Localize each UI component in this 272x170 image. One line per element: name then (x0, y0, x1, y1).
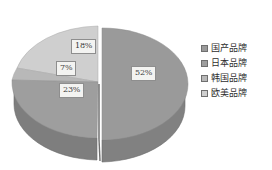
pie-chart: 52% 18% 7% 23% 国产品牌 日本品牌 韩国品牌 欧美品牌 (0, 0, 272, 170)
chart-legend: 国产品牌 日本品牌 韩国品牌 欧美品牌 (201, 41, 269, 101)
data-label-domestic: 52% (131, 66, 156, 81)
legend-item-japanese[interactable]: 日本品牌 (201, 56, 269, 71)
legend-item-european[interactable]: 欧美品牌 (201, 86, 269, 101)
data-label-korean: 7% (56, 61, 76, 76)
legend-swatch-icon (201, 90, 208, 97)
legend-label: 韩国品牌 (211, 74, 247, 83)
data-label-european: 18% (71, 39, 96, 54)
data-label-japanese: 23% (59, 83, 84, 98)
pie-plot-area: 52% 18% 7% 23% (0, 0, 196, 170)
legend-item-korean[interactable]: 韩国品牌 (201, 71, 269, 86)
pie-explode-gap-line-lower (99, 139, 100, 161)
legend-swatch-icon (201, 60, 208, 67)
legend-label: 国产品牌 (211, 44, 247, 53)
legend-item-domestic[interactable]: 国产品牌 (201, 41, 269, 56)
legend-swatch-icon (201, 75, 208, 82)
legend-swatch-icon (201, 45, 208, 52)
legend-label: 日本品牌 (211, 59, 247, 68)
pie-graphic (0, 0, 196, 170)
legend-label: 欧美品牌 (211, 89, 247, 98)
